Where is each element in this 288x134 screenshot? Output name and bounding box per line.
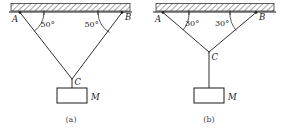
anchor-label-b-left: A: [154, 14, 161, 24]
anchor-label-a-left: A: [11, 14, 18, 24]
panel-b: 30° 30° A B C M (b): [153, 4, 276, 125]
anchor-label-a-right: B: [124, 12, 131, 22]
ceiling-hatching-b: [156, 4, 274, 12]
panel-caption-a: (a): [65, 115, 76, 124]
angle-label-left-b: 30°: [185, 19, 199, 28]
ceiling-hatching-a: [11, 4, 130, 12]
junction-label-a: C: [75, 77, 82, 87]
mass-label-b: M: [227, 92, 237, 102]
panel-caption-b: (b): [203, 115, 214, 124]
hanging-block-a: [57, 88, 87, 103]
angle-label-right-b: 30°: [215, 19, 229, 28]
panel-a: 50° 50° A B C M (a): [9, 4, 132, 125]
hanging-block-b: [194, 88, 224, 103]
angle-arc-right-a: [98, 13, 109, 33]
anchor-point-a-left: [19, 11, 22, 14]
anchor-label-b-right: B: [258, 12, 265, 22]
anchor-point-b-right: [255, 11, 258, 14]
physics-figure-svg: 50° 50° A B C M (a): [0, 0, 288, 134]
angle-label-right-a: 50°: [85, 20, 99, 29]
anchor-point-a-right: [121, 11, 124, 14]
anchor-point-b-left: [162, 11, 165, 14]
junction-label-b: C: [212, 52, 219, 62]
angle-arc-right-b: [230, 13, 236, 31]
figure-root: 50° 50° A B C M (a): [0, 0, 288, 134]
mass-label-a: M: [90, 92, 100, 102]
angle-label-left-a: 50°: [41, 20, 55, 29]
